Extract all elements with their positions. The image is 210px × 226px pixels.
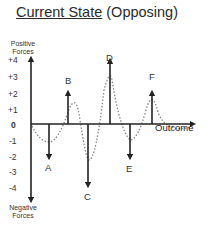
force-label-d: D [106, 52, 113, 63]
x-axis-label: Outcome [155, 122, 194, 133]
tick-label: +1 [8, 105, 18, 115]
force-label-b: B [65, 75, 71, 86]
tick-label: 0 [11, 120, 16, 130]
force-field-diagram: +4 +3 +2 +1 0 -1 -2 -3 -4 A B C D E F Ou… [0, 0, 210, 226]
tick-label: +3 [8, 72, 18, 82]
tick-label: -4 [9, 183, 17, 193]
tick-label: -3 [9, 167, 17, 177]
force-label-f: F [149, 71, 155, 82]
outcome-wave-dotted [32, 76, 190, 160]
force-label-a: A [45, 162, 52, 173]
y-tick-labels: +4 +3 +2 +1 0 -1 -2 -3 -4 [8, 55, 18, 193]
tick-label: -1 [9, 136, 17, 146]
tick-label: -2 [9, 152, 17, 162]
force-label-e: E [126, 163, 132, 174]
tick-label: +4 [8, 55, 18, 65]
force-label-c: C [84, 191, 91, 202]
tick-label: +2 [8, 89, 18, 99]
